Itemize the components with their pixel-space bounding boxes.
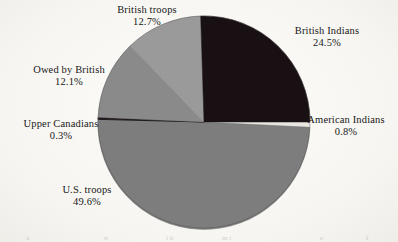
pie-label-american-indians-value: 0.8% [296,126,396,138]
pie-label-upper-canadians-name: Upper Canadians [0,118,122,130]
scan-remnant-1: a [26,234,29,242]
pie-label-upper-canadians: Upper Canadians 0.3% [0,118,122,143]
pie-label-british-indians: British Indians 24.5% [262,25,392,50]
pie-label-us-troops-name: U.S. troops [26,184,148,196]
scan-text-remnants: a rt l h m t e f [0,230,398,242]
pie-label-upper-canadians-value: 0.3% [0,130,122,142]
scan-remnant-5: e [320,234,323,242]
pie-label-american-indians: American Indians 0.8% [296,114,396,139]
scan-remnant-3: l h [166,234,173,242]
figure-pie-chart: British troops 12.7% British Indians 24.… [0,0,398,242]
pie-label-british-troops-value: 12.7% [86,16,208,28]
scan-remnant-4: m t [222,234,231,242]
pie-label-owed-by-british-name: Owed by British [8,64,130,76]
scan-remnant-2: rt [104,234,108,242]
pie-label-british-indians-name: British Indians [262,25,392,37]
pie-label-owed-by-british: Owed by British 12.1% [8,64,130,89]
scan-remnant-6: f [366,234,368,242]
pie-label-owed-by-british-value: 12.1% [8,76,130,88]
pie-label-british-troops-name: British troops [86,4,208,16]
pie-label-british-troops: British troops 12.7% [86,4,208,29]
pie-label-us-troops-value: 49.6% [26,196,148,208]
pie-slice-us-troops [98,119,310,229]
pie-label-us-troops: U.S. troops 49.6% [26,184,148,209]
pie-label-british-indians-value: 24.5% [262,37,392,49]
pie-label-american-indians-name: American Indians [296,114,396,126]
